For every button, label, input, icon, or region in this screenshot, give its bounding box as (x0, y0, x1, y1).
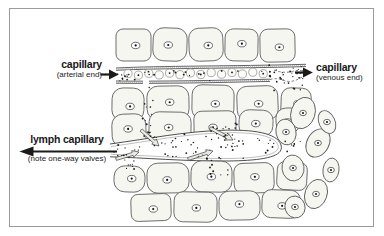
nucleolus (278, 46, 280, 48)
capillary-venous-label: capillary (venous end) (316, 61, 378, 82)
capillary-arterial-title: capillary (26, 58, 102, 70)
nucleolus (241, 43, 243, 45)
nucleolus (214, 103, 216, 105)
nucleolus (258, 103, 260, 105)
red-blood-cell (249, 68, 257, 76)
nucleolus (238, 203, 240, 205)
red-blood-cell (145, 69, 153, 77)
nucleolus (127, 128, 129, 130)
nucleolus (166, 179, 168, 181)
nucleolus (129, 105, 131, 107)
lymph-capillary-label: lymph capillary (note one-way valves) (12, 133, 122, 163)
nucleolus (207, 44, 209, 46)
tissue-cells-lower (114, 161, 308, 223)
nucleolus (152, 208, 154, 210)
nucleolus (255, 123, 257, 125)
nucleolus (195, 207, 197, 209)
venous-arrowhead-icon (303, 68, 313, 78)
capillary-venous-title: capillary (316, 61, 378, 73)
nucleolus (254, 176, 256, 178)
arterial-arrowhead-icon (109, 70, 119, 80)
nucleolus (210, 176, 212, 178)
red-blood-cell (186, 69, 194, 77)
red-blood-cell (155, 71, 163, 79)
lymph-capillary-subtitle: (note one-way valves) (12, 154, 122, 163)
capillary-arterial-subtitle: (arterial end) (26, 70, 102, 79)
red-blood-cell (238, 70, 246, 78)
nucleolus (169, 101, 171, 103)
capillary-arterial-label: capillary (arterial end) (26, 58, 102, 79)
lymph-capillary-title: lymph capillary (12, 133, 122, 145)
nucleolus (167, 44, 169, 46)
nucleolus (131, 177, 133, 179)
capillary-venous-subtitle: (venous end) (316, 73, 378, 82)
tissue-capillary-diagram (0, 0, 384, 236)
nucleolus (135, 44, 137, 46)
red-blood-cells (124, 68, 267, 79)
red-blood-cell (207, 69, 215, 77)
nucleolus (168, 126, 170, 128)
nucleolus (281, 205, 283, 207)
